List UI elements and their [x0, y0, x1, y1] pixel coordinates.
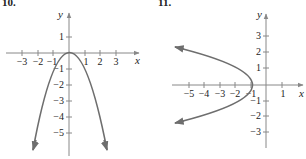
- y-tick-label: −2: [53, 79, 64, 90]
- y-tick-label: −5: [53, 127, 64, 138]
- figure: 10. −3 −2 −1 1 2 3 x 1 −1: [0, 0, 306, 159]
- y-tick-label: 2: [256, 46, 261, 57]
- x-tick-label: 2: [98, 56, 103, 67]
- x-tick-label: −2: [230, 88, 241, 99]
- y-tick-label: −3: [53, 95, 64, 106]
- x-tick-label: 1: [281, 88, 286, 99]
- x-tick-label: −3: [17, 56, 28, 67]
- x-axis-label: x: [134, 54, 140, 66]
- y-tick-label: 1: [59, 31, 64, 42]
- x-tick-label: −2: [33, 56, 44, 67]
- x-tick-label: −4: [199, 88, 210, 99]
- y-axis-label: y: [256, 8, 262, 20]
- x-tick-label: −3: [215, 88, 226, 99]
- curve-arrow-top: [175, 47, 184, 49]
- y-axis-label: y: [57, 8, 63, 20]
- x-tick-label: 3: [114, 56, 119, 67]
- y-tick-label: −3: [250, 126, 261, 137]
- x-tick-label: −5: [184, 88, 195, 99]
- y-tick-label: 1: [256, 62, 261, 73]
- graph-left: 10. −3 −2 −1 1 2 3 x 1 −1: [2, 0, 140, 156]
- y-tick-label: −4: [53, 111, 64, 122]
- graph-right: 11. −5 −4 −3 −2 −1 1 x 3 2: [158, 0, 304, 148]
- y-tick-label: −2: [250, 110, 261, 121]
- x-tick-label: 1: [84, 56, 89, 67]
- curve-arrow-bottom: [175, 121, 184, 123]
- x-axis-label: x: [298, 87, 304, 99]
- problem-number: 10.: [2, 0, 16, 8]
- y-tick-label: 3: [256, 30, 261, 41]
- y-tick-label: −1: [250, 95, 261, 106]
- problem-number: 11.: [158, 0, 171, 8]
